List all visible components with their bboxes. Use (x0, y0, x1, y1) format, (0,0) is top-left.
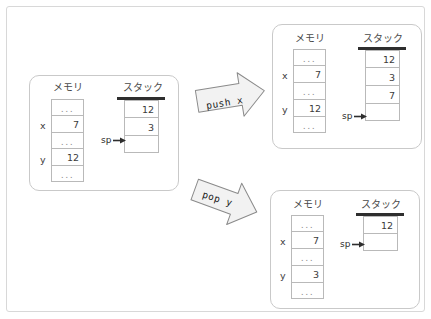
memory-cell-value: 7 (313, 235, 319, 246)
stack-heading-after-pop: スタック (357, 196, 405, 211)
stack-column-after-push: 12 3 7 (365, 50, 400, 121)
stack-cell: 7 (365, 85, 400, 103)
memory-cell: ... (51, 132, 84, 148)
memory-heading-after-pop: メモリ (291, 196, 325, 211)
memory-cell-value: ... (292, 285, 323, 296)
memory-var-label-x: x (280, 236, 286, 247)
memory-heading-after-push: メモリ (293, 30, 327, 45)
memory-cell-value: ... (52, 135, 83, 146)
stack-cell: 12 (363, 216, 398, 233)
stack-column-initial: 12 3 (124, 100, 159, 153)
memory-cell: ... (291, 248, 324, 265)
memory-var-label-x: x (282, 70, 288, 81)
memory-column-after-push: ... 7 ... 12 ... (293, 49, 326, 133)
memory-cell-value: ... (52, 102, 83, 113)
memory-cell: 12 (51, 148, 84, 165)
stack-cell (124, 135, 159, 153)
memory-cell-value: ... (294, 86, 325, 97)
transition-arrow-push: push x (193, 69, 269, 127)
sp-pointer-after-push: sp (342, 111, 367, 121)
sp-arrow-icon (352, 241, 365, 248)
memory-var-label-x: x (40, 120, 46, 131)
memory-cell-value: 12 (67, 152, 79, 163)
stack-heading-after-push: スタック (359, 30, 407, 45)
memory-cell-value: ... (52, 168, 83, 179)
stack-cell-value: 7 (389, 89, 395, 100)
sp-pointer-initial: sp (101, 135, 126, 145)
sp-arrow-icon (113, 137, 126, 144)
memory-cell-value: ... (292, 218, 323, 229)
memory-cell-value: 7 (315, 69, 321, 80)
memory-heading-initial: メモリ (51, 79, 85, 94)
sp-label: sp (340, 239, 350, 249)
memory-var-label-y: y (282, 104, 288, 115)
stack-cell-value: 3 (389, 71, 395, 82)
sp-pointer-after-pop: sp (340, 239, 365, 249)
sp-label: sp (101, 135, 111, 145)
memory-cell-value: ... (294, 119, 325, 130)
stack-cell: 12 (365, 50, 400, 67)
memory-cell: ... (51, 99, 84, 115)
memory-cell-value: 12 (309, 103, 321, 114)
stack-cell (363, 233, 398, 251)
memory-cell: 7 (51, 115, 84, 132)
transition-arrow-pop: pop y (188, 175, 268, 237)
memory-cell-value: ... (294, 52, 325, 63)
memory-cell: 7 (291, 231, 324, 248)
stack-cell: 12 (124, 100, 159, 117)
memory-cell: 7 (293, 65, 326, 82)
stack-cell-value: 12 (142, 104, 154, 115)
memory-cell-value: ... (292, 252, 323, 263)
memory-cell: ... (293, 82, 326, 99)
stack-cell (365, 103, 400, 121)
memory-cell: ... (291, 215, 324, 231)
memory-cell: ... (291, 282, 324, 299)
stack-cell: 3 (124, 117, 159, 135)
memory-column-initial: ... 7 ... 12 ... (51, 99, 84, 182)
memory-cell-value: 3 (313, 269, 319, 280)
stack-heading-initial: スタック (119, 79, 167, 94)
memory-cell: ... (293, 116, 326, 133)
memory-var-label-y: y (40, 154, 46, 165)
memory-cell-value: 7 (73, 119, 79, 130)
stack-column-after-pop: 12 (363, 216, 398, 251)
stack-cell-value: 12 (381, 220, 393, 231)
memory-var-label-y: y (280, 270, 286, 281)
memory-cell: ... (51, 165, 84, 182)
stack-cell-value: 3 (148, 121, 154, 132)
diagram-frame: メモリ スタック ... 7 ... 12 ... x y 12 3 (6, 6, 425, 312)
memory-cell: 12 (293, 99, 326, 116)
stack-cell-value: 12 (383, 54, 395, 65)
memory-column-after-pop: ... 7 ... 3 ... (291, 215, 324, 299)
sp-label: sp (342, 111, 352, 121)
stack-cell: 3 (365, 67, 400, 85)
sp-arrow-icon (354, 113, 367, 120)
memory-cell: 3 (291, 265, 324, 282)
memory-cell: ... (293, 49, 326, 65)
